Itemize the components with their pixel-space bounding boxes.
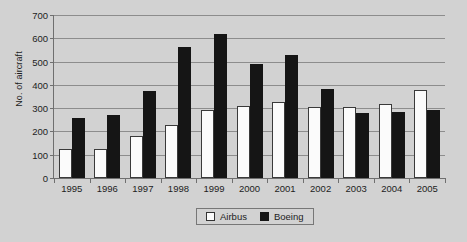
bar-airbus-2003 <box>343 107 356 178</box>
y-tick-label: 0 <box>43 173 48 184</box>
x-tick-label: 1998 <box>161 183 197 194</box>
x-tick-label: 1997 <box>125 183 161 194</box>
x-tick-label: 2005 <box>409 183 445 194</box>
bar-boeing-2003 <box>356 113 369 178</box>
bar-airbus-1998 <box>165 125 178 178</box>
bar-boeing-2004 <box>392 112 405 178</box>
bar-group <box>54 15 90 178</box>
x-tick-label: 2001 <box>267 183 303 194</box>
bar-airbus-1995 <box>59 149 72 178</box>
bar-group <box>161 15 197 178</box>
legend: Airbus Boeing <box>196 208 314 225</box>
bar-group <box>338 15 374 178</box>
bar-airbus-2000 <box>237 106 250 178</box>
bar-airbus-2001 <box>272 102 285 178</box>
bar-boeing-2000 <box>250 64 263 178</box>
bar-group <box>267 15 303 178</box>
bar-airbus-2004 <box>379 104 392 179</box>
x-tick-mark <box>445 178 446 183</box>
bar-airbus-2005 <box>414 90 427 178</box>
x-tick-label: 2004 <box>374 183 410 194</box>
bar-group <box>303 15 339 178</box>
legend-item-boeing: Boeing <box>260 211 304 222</box>
bar-group <box>409 15 445 178</box>
x-tick-label: 2002 <box>303 183 339 194</box>
legend-label-airbus: Airbus <box>220 211 247 222</box>
legend-swatch-airbus <box>206 212 215 221</box>
x-tick-label: 2000 <box>232 183 268 194</box>
bar-airbus-2002 <box>308 107 321 178</box>
bar-airbus-1996 <box>94 149 107 178</box>
bar-boeing-2001 <box>285 55 298 178</box>
bar-boeing-1997 <box>143 91 156 178</box>
bar-chart: No. of aircraft 0100200300400500600700 1… <box>0 0 467 242</box>
x-tick-label: 1996 <box>90 183 126 194</box>
bar-boeing-1995 <box>72 118 85 178</box>
x-axis-line <box>53 178 445 179</box>
bar-airbus-1997 <box>130 136 143 178</box>
y-tick-label: 600 <box>32 33 48 44</box>
bar-groups <box>54 15 445 178</box>
bar-boeing-1999 <box>214 34 227 178</box>
x-tick-label: 2003 <box>338 183 374 194</box>
bar-group <box>196 15 232 178</box>
bar-boeing-1998 <box>178 47 191 178</box>
y-tick-label: 500 <box>32 56 48 67</box>
y-tick-label: 300 <box>32 103 48 114</box>
legend-item-airbus: Airbus <box>206 211 247 222</box>
bar-group <box>232 15 268 178</box>
bar-group <box>374 15 410 178</box>
y-axis-title: No. of aircraft <box>14 24 24 134</box>
x-tick-label: 1995 <box>54 183 90 194</box>
x-axis-labels: 1995199619971998199920002001200220032004… <box>54 183 445 194</box>
x-tick-label: 1999 <box>196 183 232 194</box>
y-tick-label: 200 <box>32 126 48 137</box>
bar-airbus-1999 <box>201 110 214 178</box>
bar-boeing-2002 <box>321 89 334 178</box>
bar-group <box>90 15 126 178</box>
y-tick-label: 100 <box>32 149 48 160</box>
plot-area: 0100200300400500600700 <box>54 15 445 178</box>
bar-group <box>125 15 161 178</box>
legend-label-boeing: Boeing <box>274 211 304 222</box>
bar-boeing-1996 <box>107 115 120 178</box>
y-tick-label: 400 <box>32 79 48 90</box>
y-tick-label: 700 <box>32 10 48 21</box>
bar-boeing-2005 <box>427 110 440 178</box>
legend-swatch-boeing <box>260 212 269 221</box>
